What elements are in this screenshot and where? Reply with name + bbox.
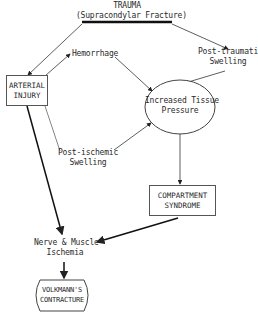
trauma-subtitle: (Supracondylar Fracture) [76,11,180,21]
itp-line2: Pressure [145,106,215,116]
post-traumatic-line2: Swelling [198,57,258,67]
volkmann-line1: VOLKMANN'S [36,285,88,295]
compartment-line2: SYNDROME [164,201,200,211]
nerve-muscle-line2: Ischemia [34,248,96,258]
post-traumatic-line1: Post-traumatic [198,47,258,57]
post-ischemic-line1: Post-ischemic [58,148,118,158]
arterial-injury-line1: ARTERIAL [9,81,45,91]
itp-line1: Increased Tissue [145,96,215,106]
trauma-title: TRAUMA [82,1,172,11]
arterial-injury-box: ARTERIAL INJURY [6,75,48,106]
compartment-line1: COMPARTMENT [158,191,208,201]
post-ischemic-line2: Swelling [58,158,118,168]
compartment-syndrome-box: COMPARTMENT SYNDROME [149,185,216,216]
nerve-muscle-line1: Nerve & Muscle [34,238,96,248]
hemorrhage-label: Hemorrhage [72,49,116,59]
volkmann-line2: CONTRACTURE [36,295,88,305]
arterial-injury-line2: INJURY [13,91,40,101]
